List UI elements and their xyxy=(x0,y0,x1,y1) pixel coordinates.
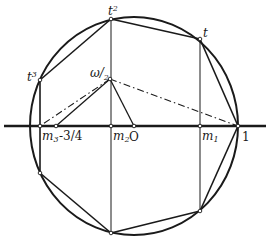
label-t-squared: t2 xyxy=(108,4,118,18)
label-t: t xyxy=(203,26,208,40)
label-origin: O xyxy=(129,130,139,144)
omega-half-lines xyxy=(56,79,134,126)
diagram-canvas: t t2 t3 ω/2 m3 -3/4 m2 O m1 1 xyxy=(0,0,270,244)
label-m2: m2 xyxy=(113,129,129,144)
label-m1: m1 xyxy=(202,129,218,144)
label-omega-half: ω/2 xyxy=(90,66,109,82)
label-t-cubed: t3 xyxy=(27,70,37,84)
label-m3: m3 xyxy=(42,129,58,144)
label-minus-three-quarters: -3/4 xyxy=(59,129,83,143)
dash-dot-lines xyxy=(40,79,238,126)
label-one: 1 xyxy=(242,130,250,144)
heptagon-construction-diagram: t t2 t3 ω/2 m3 -3/4 m2 O m1 1 xyxy=(0,0,270,244)
